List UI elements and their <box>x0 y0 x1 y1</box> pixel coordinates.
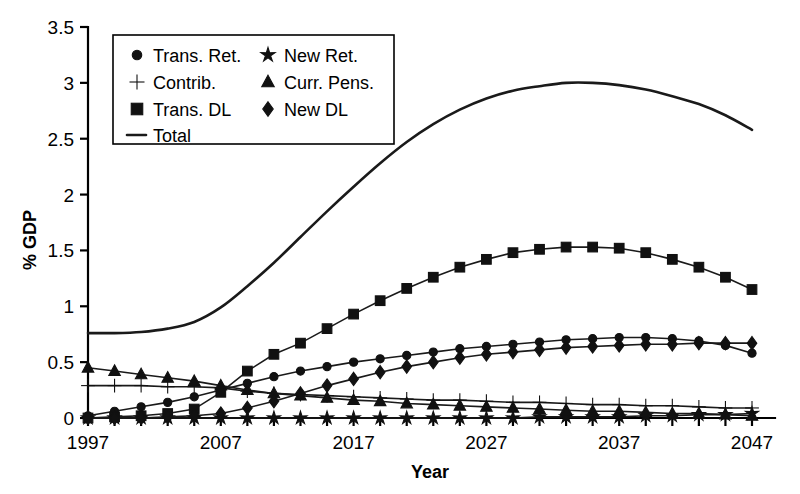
series-trans-ret <box>84 333 756 419</box>
x-tick-label: 2027 <box>465 432 507 453</box>
legend-label: Total <box>153 126 191 146</box>
data-point <box>641 248 651 258</box>
y-tick-label: 0.5 <box>48 352 74 373</box>
data-point <box>614 243 624 253</box>
y-axis-title: % GDP <box>20 210 40 270</box>
chart-canvas: 00.511.522.533.5 19972007201720272037204… <box>0 0 800 494</box>
y-tick-label: 3.5 <box>48 17 74 38</box>
data-point <box>376 355 384 363</box>
data-point <box>322 379 332 392</box>
data-point <box>482 255 492 265</box>
data-point <box>428 272 438 282</box>
y-tick-label: 1.5 <box>48 240 74 261</box>
y-axis: 00.511.522.533.5 <box>48 17 88 429</box>
data-point <box>323 363 331 371</box>
chart-figure: 00.511.522.533.5 19972007201720272037204… <box>0 0 800 494</box>
data-point <box>694 262 704 272</box>
data-point <box>349 309 359 319</box>
data-point <box>561 242 571 252</box>
legend-label: Trans. DL <box>153 100 231 120</box>
x-tick-label: 2037 <box>598 432 640 453</box>
data-point <box>721 272 731 282</box>
data-point <box>402 360 412 373</box>
legend-label: Curr. Pens. <box>284 73 374 93</box>
data-point <box>164 398 172 406</box>
legend-label: New Ret. <box>284 46 358 66</box>
data-point <box>535 244 545 254</box>
legend-label: New DL <box>284 100 348 120</box>
data-point <box>667 255 677 265</box>
data-point <box>270 373 278 381</box>
y-tick-label: 0 <box>63 408 74 429</box>
legend-label: Trans. Ret. <box>153 46 241 66</box>
legend-circle-icon <box>132 50 142 60</box>
data-point <box>134 379 148 393</box>
legend-square-icon <box>131 103 143 115</box>
data-point <box>455 351 465 364</box>
series-contrib <box>81 379 759 415</box>
x-tick-group: 199720072017202720372047 <box>67 418 773 453</box>
data-point <box>322 324 332 334</box>
data-point <box>216 387 226 397</box>
x-tick-label: 1997 <box>67 432 109 453</box>
x-tick-label: 2017 <box>332 432 374 453</box>
legend: Trans. Ret.New Ret.Contrib.Curr. Pens.Tr… <box>113 35 394 146</box>
x-axis: 199720072017202720372047 <box>67 418 775 453</box>
data-point <box>296 338 306 348</box>
series-new-ret <box>81 407 758 424</box>
data-point <box>613 405 625 416</box>
data-point <box>428 355 438 368</box>
data-point <box>108 379 122 393</box>
y-tick-label: 2.5 <box>48 129 74 150</box>
data-point <box>350 358 358 366</box>
data-point <box>243 366 253 376</box>
data-point <box>747 336 757 349</box>
data-point <box>375 296 385 306</box>
y-tick-label: 3 <box>63 73 74 94</box>
series-trans-dl <box>83 242 757 423</box>
data-point <box>402 284 412 294</box>
legend-label: Contrib. <box>153 73 216 93</box>
data-point <box>508 248 518 258</box>
data-point <box>403 351 411 359</box>
data-point <box>81 379 95 393</box>
y-tick-label: 2 <box>63 185 74 206</box>
data-point <box>243 401 253 414</box>
data-point <box>747 285 757 295</box>
data-point <box>375 366 385 379</box>
x-axis-title: Year <box>411 462 449 482</box>
data-point <box>455 262 465 272</box>
data-point <box>296 367 304 375</box>
x-tick-label: 2007 <box>200 432 242 453</box>
data-point <box>588 242 598 252</box>
data-point <box>190 393 198 401</box>
y-tick-label: 1 <box>63 296 74 317</box>
data-point <box>269 349 279 359</box>
y-tick-group: 00.511.522.533.5 <box>48 17 88 429</box>
x-tick-label: 2047 <box>731 432 773 453</box>
data-point <box>349 372 359 385</box>
